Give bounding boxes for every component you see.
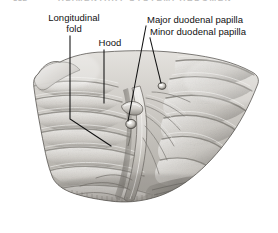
anatomy-figure: 332 ALIMENTARY SYSTEM: ABDOMEN: [0, 0, 278, 233]
label-minor-duodenal-papilla-text: Minor duodenal papilla: [150, 26, 246, 37]
label-minor-duodenal-papilla: Minor duodenal papilla: [150, 27, 246, 38]
label-longitudinal-fold: Longitudinal fold: [38, 13, 110, 34]
label-longitudinal-fold-line1: Longitudinal: [48, 12, 99, 23]
major-papilla-structure: [126, 119, 136, 128]
label-major-duodenal-papilla: Major duodenal papilla: [147, 15, 243, 26]
label-hood: Hood: [93, 38, 127, 49]
label-major-duodenal-papilla-text: Major duodenal papilla: [147, 14, 243, 25]
label-longitudinal-fold-line2: fold: [66, 23, 81, 34]
minor-papilla-structure: [158, 83, 166, 90]
label-hood-text: Hood: [99, 37, 122, 48]
